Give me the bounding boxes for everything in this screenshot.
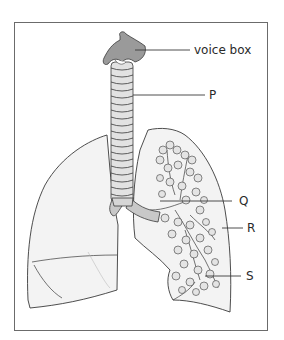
label-voice-box: voice box bbox=[194, 43, 251, 57]
left-side-lung bbox=[28, 135, 118, 308]
voice-box bbox=[103, 32, 145, 65]
label-p: P bbox=[209, 88, 216, 102]
label-r: R bbox=[247, 221, 255, 235]
label-q: Q bbox=[239, 194, 248, 208]
label-s: S bbox=[246, 269, 254, 283]
trachea bbox=[111, 62, 133, 202]
